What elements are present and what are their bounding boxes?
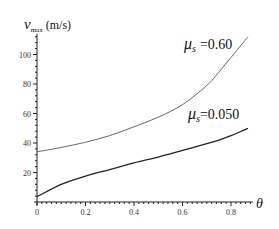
- y-tick-label: 100: [19, 51, 31, 60]
- series-label-mu: μ: [183, 35, 192, 53]
- y-axis-label: vmax(m/s): [24, 16, 71, 34]
- x-tick-label: 0.8: [226, 208, 236, 217]
- x-tick-label: 0.6: [178, 208, 188, 217]
- y-axis: 20406080100: [19, 34, 37, 205]
- series-line-low-friction: [37, 128, 248, 196]
- series-label-low-friction: μs=0.050: [187, 105, 239, 124]
- series-label-mu: μ: [187, 105, 196, 123]
- series-label-high-friction: μs=0.60: [183, 35, 232, 54]
- y-tick-label: 60: [23, 110, 31, 119]
- x-tick-label: 0: [35, 208, 39, 217]
- series-label-value: =0.050: [200, 107, 239, 122]
- x-tick-label: 0.2: [81, 208, 91, 217]
- chart: 20406080100 00.20.40.60.8 vmax(m/s) θ μs…: [0, 0, 279, 229]
- series-line-high-friction: [37, 37, 248, 152]
- x-axis: 00.20.40.60.8: [34, 202, 253, 217]
- x-axis-label: θ: [256, 196, 263, 211]
- series-label-value: =0.60: [200, 37, 232, 52]
- y-axis-label-unit: (m/s): [46, 18, 71, 32]
- y-axis-label-sub: max: [31, 26, 44, 34]
- y-tick-label: 80: [23, 80, 31, 89]
- x-tick-label: 0.4: [129, 208, 139, 217]
- y-tick-label: 40: [23, 139, 31, 148]
- series-label-sub: s: [192, 43, 196, 54]
- y-tick-label: 20: [23, 169, 31, 178]
